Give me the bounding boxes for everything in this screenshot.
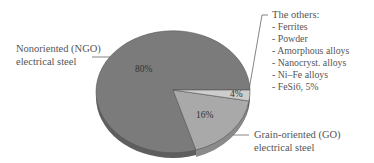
others-title: The others: (272, 8, 349, 21)
go-label-line2: electrical steel (254, 141, 341, 154)
others-item: - Ni–Fe alloys (272, 69, 349, 81)
others-item: - FeSi6, 5% (272, 81, 349, 93)
others-item: - Nanocryst. alloys (272, 57, 349, 69)
pct-ngo: 80% (135, 64, 152, 74)
ngo-label-line1: Nonoriented (NGO) (16, 42, 101, 55)
ngo-label-line2: electrical steel (16, 55, 101, 68)
others-item: - Amorphous alloys (272, 45, 349, 57)
others-list: - Ferrites - Powder - Amorphous alloys -… (272, 21, 349, 93)
go-label: Grain-oriented (GO) electrical steel (254, 128, 341, 154)
pct-go: 16% (196, 110, 213, 120)
others-item: - Ferrites (272, 21, 349, 33)
others-label: The others: - Ferrites - Powder - Amorph… (272, 8, 349, 93)
others-item: - Powder (272, 33, 349, 45)
ngo-label: Nonoriented (NGO) electrical steel (16, 42, 101, 68)
leader-others (249, 15, 262, 90)
go-label-line1: Grain-oriented (GO) (254, 128, 341, 141)
pct-others: 4% (230, 89, 243, 99)
